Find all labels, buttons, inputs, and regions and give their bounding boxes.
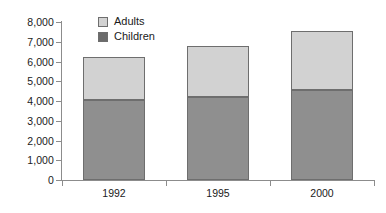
y-tick-mark: [56, 160, 62, 161]
legend-label-children: Children: [114, 31, 155, 42]
y-tick-label: 3,000: [2, 116, 54, 127]
y-tick-mark: [56, 101, 62, 102]
x-axis-line: [61, 180, 375, 181]
y-tick-label: 8,000: [2, 17, 54, 28]
x-category-label: 2000: [282, 188, 362, 199]
x-category-label: 1995: [178, 188, 258, 199]
y-tick-label: 1,000: [2, 155, 54, 166]
bar-segment-adults: [187, 46, 249, 97]
x-tick-mark: [62, 180, 63, 186]
x-tick-mark: [166, 180, 167, 186]
y-tick-mark: [56, 141, 62, 142]
legend-item-children: Children: [98, 29, 155, 44]
stacked-bar-chart: 01,0002,0003,0004,0005,0006,0007,0008,00…: [0, 0, 386, 213]
y-tick-mark: [56, 22, 62, 23]
dark-gray-swatch-icon: [98, 32, 108, 42]
bar-segment-adults: [291, 31, 353, 91]
bar-group: [187, 22, 249, 180]
y-tick-mark: [56, 42, 62, 43]
chart-legend: Adults Children: [98, 14, 155, 44]
y-tick-label: 6,000: [2, 57, 54, 68]
y-tick-mark: [56, 121, 62, 122]
y-tick-label: 4,000: [2, 96, 54, 107]
bar-segment-children: [83, 100, 145, 180]
legend-item-adults: Adults: [98, 14, 155, 29]
x-category-label: 1992: [74, 188, 154, 199]
y-tick-mark: [56, 81, 62, 82]
y-tick-label: 0: [2, 175, 54, 186]
light-gray-swatch-icon: [98, 17, 108, 27]
bar-group: [83, 22, 145, 180]
bar-segment-children: [291, 90, 353, 180]
y-tick-label: 2,000: [2, 136, 54, 147]
legend-label-adults: Adults: [114, 16, 145, 27]
bar-segment-children: [187, 97, 249, 180]
x-tick-mark: [270, 180, 271, 186]
bar-group: [291, 22, 353, 180]
x-tick-mark: [374, 180, 375, 186]
bar-segment-adults: [83, 57, 145, 100]
y-tick-mark: [56, 62, 62, 63]
y-tick-label: 5,000: [2, 76, 54, 87]
y-tick-label: 7,000: [2, 37, 54, 48]
